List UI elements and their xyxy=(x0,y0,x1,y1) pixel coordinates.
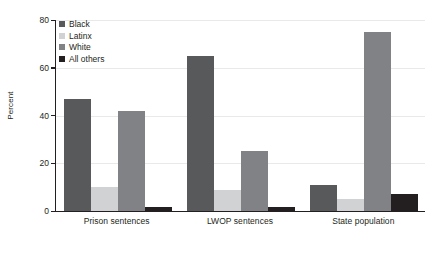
bar-slot xyxy=(337,20,364,211)
legend-label-white: White xyxy=(69,42,91,52)
legend-label-all-others: All others xyxy=(69,54,104,64)
bar-latinx-lwop-sentences xyxy=(214,190,241,211)
y-axis-tick-mark-icon xyxy=(51,115,55,116)
bar-slot xyxy=(118,20,145,211)
y-axis-title-text: Percent xyxy=(6,91,15,119)
bar-slot xyxy=(268,20,295,211)
bar-slot xyxy=(391,20,418,211)
bar-all-others-lwop-sentences xyxy=(268,207,295,211)
bar-slot xyxy=(214,20,241,211)
y-axis-tick-20: 20 xyxy=(40,158,56,168)
plot-inner: 020406080 xyxy=(56,20,425,211)
legend-swatch-black-icon xyxy=(59,21,65,27)
legend-label-latinx: Latinx xyxy=(69,31,92,41)
bar-black-prison-sentences xyxy=(64,99,91,211)
bar-groups xyxy=(56,20,425,211)
bar-black-state-population xyxy=(310,185,337,211)
plot-area: 020406080 xyxy=(55,20,425,212)
y-axis-tick-80: 80 xyxy=(40,15,56,25)
y-axis-tick-mark-icon xyxy=(51,163,55,164)
bar-white-state-population xyxy=(364,32,391,211)
bar-slot xyxy=(187,20,214,211)
bar-all-others-prison-sentences xyxy=(145,207,172,211)
bar-group-state-population xyxy=(302,20,425,211)
x-axis-label-lwop-sentences: LWOP sentences xyxy=(178,216,301,232)
y-axis-tick-40: 40 xyxy=(40,111,56,121)
bar-black-lwop-sentences xyxy=(187,56,214,211)
y-axis-tick-mark-icon xyxy=(51,67,55,68)
x-axis-label-prison-sentences: Prison sentences xyxy=(55,216,178,232)
legend-item-latinx: Latinx xyxy=(59,31,104,41)
bar-latinx-state-population xyxy=(337,199,364,211)
legend-item-all-others: All others xyxy=(59,54,104,64)
bar-chart: Percent 020406080 Prison sentences LWOP … xyxy=(0,0,433,258)
legend-swatch-latinx-icon xyxy=(59,33,65,39)
bar-slot xyxy=(364,20,391,211)
bar-slot xyxy=(310,20,337,211)
y-axis-title: Percent xyxy=(2,0,18,211)
legend-item-black: Black xyxy=(59,19,104,29)
y-axis-tick-0: 0 xyxy=(44,206,56,216)
legend-label-black: Black xyxy=(69,19,90,29)
bar-white-prison-sentences xyxy=(118,111,145,211)
bar-all-others-state-population xyxy=(391,194,418,211)
bar-latinx-prison-sentences xyxy=(91,187,118,211)
bar-slot xyxy=(145,20,172,211)
legend-swatch-all-others-icon xyxy=(59,56,65,62)
bar-group-lwop-sentences xyxy=(179,20,302,211)
legend-swatch-white-icon xyxy=(59,44,65,50)
bar-white-lwop-sentences xyxy=(241,151,268,211)
x-axis-labels: Prison sentences LWOP sentences State po… xyxy=(55,216,425,232)
bar-slot xyxy=(241,20,268,211)
chart-legend: Black Latinx White All others xyxy=(59,19,104,64)
y-axis-tick-mark-icon xyxy=(51,20,55,21)
y-axis-tick-mark-icon xyxy=(51,211,55,212)
x-axis-label-state-population: State population xyxy=(302,216,425,232)
y-axis-tick-60: 60 xyxy=(40,63,56,73)
legend-item-white: White xyxy=(59,42,104,52)
